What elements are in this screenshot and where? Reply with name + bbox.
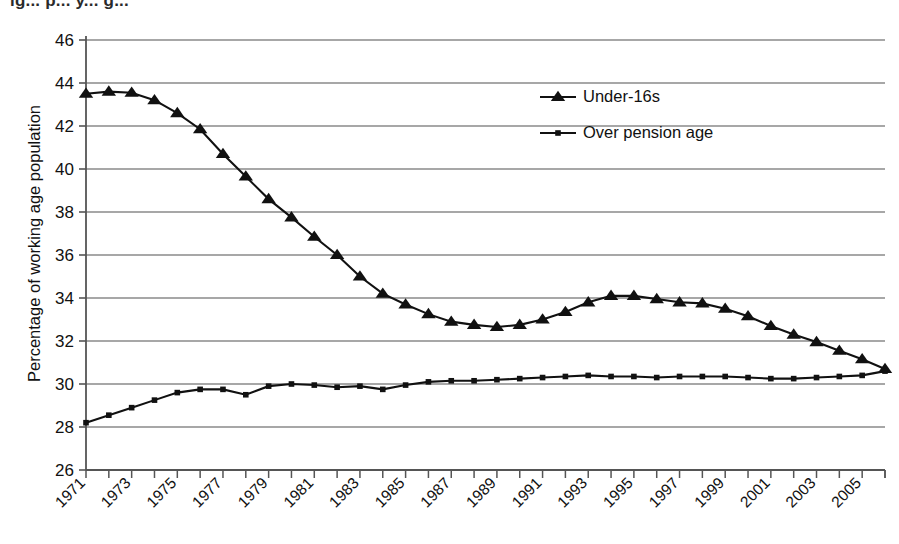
data-point-marker — [551, 91, 565, 101]
data-point-marker — [555, 130, 561, 136]
data-point-marker — [152, 397, 158, 403]
chart-figure: ig... p... y... g... Percentage of worki… — [0, 0, 899, 544]
data-point-marker — [220, 387, 226, 393]
data-point-marker — [311, 382, 317, 388]
y-tick-label: 30 — [55, 375, 74, 394]
line-chart-plot: 2628303234363840424446 19711973197519771… — [0, 0, 899, 544]
x-tick-labels: 1971197319751977197919811983198519871989… — [52, 474, 865, 510]
data-point-marker — [631, 374, 637, 380]
data-point-marker — [654, 375, 660, 381]
data-point-marker — [129, 405, 135, 411]
data-point-marker — [517, 376, 523, 382]
data-point-marker — [175, 390, 181, 396]
data-point-marker — [608, 374, 614, 380]
x-tick-label: 1989 — [463, 474, 499, 510]
x-tick-label: 1985 — [371, 474, 407, 510]
data-point-marker — [604, 290, 618, 300]
x-tick-label: 1979 — [234, 474, 270, 510]
y-tick-label: 42 — [55, 117, 74, 136]
x-tick-label: 1993 — [554, 474, 590, 510]
data-point-marker — [791, 376, 797, 382]
x-tick-label: 2003 — [782, 474, 818, 510]
chart-legend: Under-16sOver pension age — [540, 87, 713, 141]
data-point-marker — [882, 368, 888, 374]
data-point-marker — [357, 383, 363, 389]
data-point-marker — [398, 298, 412, 308]
data-point-marker — [380, 387, 386, 393]
series-line — [86, 371, 885, 423]
series-2 — [83, 368, 888, 425]
x-tick-label: 2001 — [737, 474, 773, 510]
data-point-marker — [243, 392, 249, 398]
data-point-marker — [334, 384, 340, 390]
x-tick-label: 2005 — [828, 474, 864, 510]
y-tick-marks — [79, 40, 86, 470]
data-point-marker — [540, 375, 546, 381]
axis-lines — [86, 36, 885, 470]
data-point-marker — [197, 387, 203, 393]
data-point-marker — [768, 376, 774, 382]
data-point-marker — [677, 374, 683, 380]
data-point-marker — [859, 373, 865, 379]
y-tick-labels: 2628303234363840424446 — [55, 31, 74, 480]
y-tick-label: 34 — [55, 289, 74, 308]
x-tick-label: 1987 — [417, 474, 453, 510]
y-tick-label: 36 — [55, 246, 74, 265]
x-tick-label: 1991 — [508, 474, 544, 510]
x-tick-label: 1999 — [691, 474, 727, 510]
series-1 — [79, 85, 892, 373]
y-tick-label: 32 — [55, 332, 74, 351]
data-point-marker — [403, 382, 409, 388]
y-tick-label: 44 — [55, 74, 74, 93]
x-tick-label: 1975 — [143, 474, 179, 510]
x-tick-label: 1981 — [280, 474, 316, 510]
gridlines — [86, 40, 885, 470]
data-point-marker — [494, 377, 500, 383]
legend-entry-1: Under-16s — [540, 87, 660, 105]
data-point-marker — [814, 375, 820, 381]
data-point-marker — [266, 383, 272, 389]
data-point-marker — [170, 107, 184, 117]
data-point-marker — [471, 378, 477, 384]
data-point-marker — [426, 379, 432, 385]
data-point-marker — [448, 378, 454, 384]
data-point-marker — [745, 375, 751, 381]
y-tick-label: 28 — [55, 418, 74, 437]
data-point-marker — [700, 374, 706, 380]
x-tick-label: 1983 — [326, 474, 362, 510]
legend-label: Under-16s — [583, 87, 660, 105]
data-point-marker — [289, 381, 295, 387]
data-point-marker — [627, 290, 641, 300]
data-point-marker — [83, 420, 89, 426]
x-tick-label: 1995 — [600, 474, 636, 510]
data-point-marker — [102, 85, 116, 95]
x-tick-label: 1977 — [189, 474, 225, 510]
data-point-marker — [837, 374, 843, 380]
y-tick-label: 38 — [55, 203, 74, 222]
x-tick-label: 1973 — [97, 474, 133, 510]
data-point-marker — [106, 412, 112, 418]
y-tick-label: 26 — [55, 461, 74, 480]
data-point-marker — [722, 374, 728, 380]
data-point-marker — [563, 374, 569, 380]
legend-label: Over pension age — [583, 123, 713, 141]
y-tick-label: 46 — [55, 31, 74, 50]
x-tick-label: 1997 — [645, 474, 681, 510]
data-point-marker — [585, 373, 591, 379]
y-tick-label: 40 — [55, 160, 74, 179]
